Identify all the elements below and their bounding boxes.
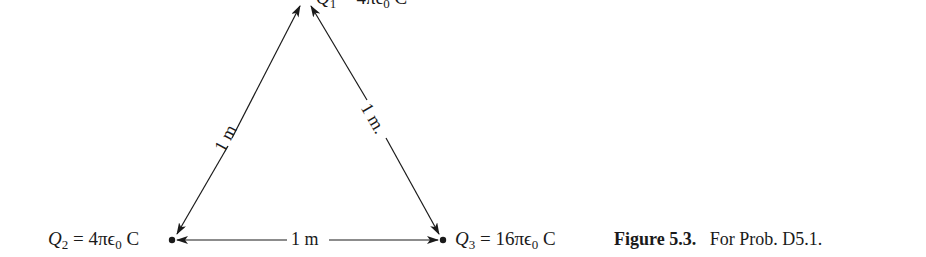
charge-q3-label: Q3 = 16πϵ0 C [455, 228, 556, 253]
figure-number: Figure 5.3. [614, 229, 696, 249]
charge-q2-dot [169, 237, 175, 243]
charge-q2-label: Q2 = 4πϵ0 C [48, 228, 139, 253]
charge-q3-dot [440, 237, 446, 243]
figure-caption: Figure 5.3. For Prob. D5.1. [614, 229, 822, 250]
bottom-distance-label: 1 m [291, 229, 319, 250]
charge-q1-label: Q1 = 4πϵ0 C [316, 0, 407, 12]
figure-caption-text: For Prob. D5.1. [710, 229, 823, 249]
triangle-diagram [0, 0, 926, 257]
left-distance-arrow [177, 6, 300, 234]
